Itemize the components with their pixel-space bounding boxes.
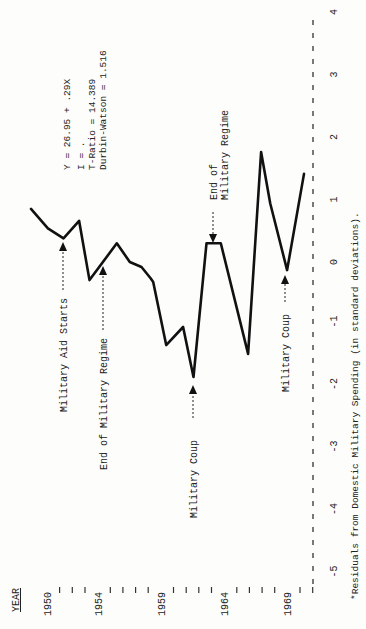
residual-tick-label: 0 — [329, 259, 340, 265]
residual-tick-label: -2 — [329, 378, 340, 390]
annotation-end-military-regime-1: End of Military Regime — [99, 266, 110, 470]
residual-tick-label: 4 — [329, 9, 340, 15]
annotation-label: Military Aid Starts — [59, 298, 70, 412]
stat-equation: Y = 26.95 + .29X — [62, 78, 73, 170]
stat-durbin-watson: Durbin-Watson = 1.516 — [98, 50, 109, 170]
residual-tick-label: -5 — [329, 565, 340, 577]
annotation-military-coup-2: Military Coup — [281, 275, 292, 392]
annotation-label: Military Coup — [281, 314, 292, 392]
arrow-head-up-icon — [281, 275, 289, 284]
year-axis-title: YEAR — [11, 588, 22, 612]
residual-tick-label: 1 — [329, 196, 340, 202]
year-label: 1964 — [220, 592, 231, 616]
year-axis: YEAR 19501954195919641969 — [11, 587, 313, 616]
annotation-military-coup-1: Military Coup — [189, 385, 200, 518]
annotation-label-line2: Military Regime — [220, 110, 231, 200]
arrow-head-down-icon — [209, 234, 217, 243]
residual-tick-label: -3 — [329, 440, 340, 452]
residual-tick-label: 3 — [329, 71, 340, 77]
residual-axis: -5-4-3-2-101234 *Residuals from Domestic… — [313, 9, 361, 600]
regression-stats: Y = 26.95 + .29X I = . T-Ratio = 14.389 … — [62, 50, 109, 170]
residuals-series-line — [31, 152, 304, 377]
annotation-end-military-regime-2: End of Military Regime — [209, 110, 231, 243]
year-label: 1959 — [157, 592, 168, 616]
stat-t-ratio: T-Ratio = 14.389 — [87, 78, 98, 170]
residual-axis-caption: *Residuals from Domestic Military Spendi… — [350, 212, 361, 600]
annotations: Military Aid Starts End of Military Regi… — [59, 110, 292, 518]
annotation-label: End of Military Regime — [99, 338, 110, 470]
residual-tick-label: -1 — [329, 315, 340, 327]
residuals-line-chart: YEAR 19501954195919641969 -5-4-3-2-10123… — [0, 0, 366, 629]
arrow-head-up-icon — [189, 385, 197, 394]
annotation-label: Military Coup — [189, 440, 200, 518]
residual-tick-label: 2 — [329, 134, 340, 140]
stat-r: I = . — [76, 141, 87, 170]
year-label: 1950 — [43, 592, 54, 616]
annotation-military-aid-starts: Military Aid Starts — [59, 242, 70, 412]
year-label: 1969 — [283, 592, 294, 616]
arrow-head-up-icon — [59, 242, 67, 251]
residual-axis-labels: -5-4-3-2-101234 — [329, 9, 340, 578]
residual-tick-label: -4 — [329, 503, 340, 515]
year-labels: 19501954195919641969 — [43, 592, 294, 616]
annotation-label-line1: End of — [209, 164, 220, 200]
year-label: 1954 — [94, 592, 105, 616]
